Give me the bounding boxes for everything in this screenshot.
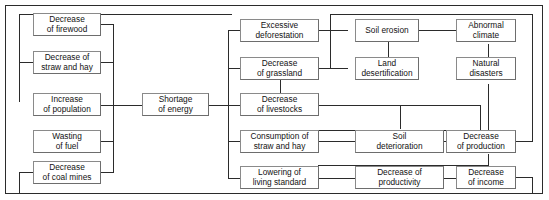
edge-abnormal-to-disasters: [488, 44, 489, 58]
node-straw-hay[interactable]: Decrease of straw and hay: [33, 51, 101, 74]
edge-erosion-to-abnormal: [418, 30, 456, 31]
edge-grassland-to-livestocks: [280, 80, 281, 93]
node-grassland[interactable]: Decrease of grassland: [240, 57, 319, 80]
node-wasting-fuel[interactable]: Wasting of fuel: [33, 130, 101, 153]
edge-deforestation-trunk: [330, 14, 331, 69]
node-natural-disasters[interactable]: Natural disasters: [456, 57, 516, 80]
edge-production-to-income: [488, 154, 489, 165]
edge-right-bus: [228, 30, 229, 178]
node-living-standard[interactable]: Lowering of living standard: [240, 166, 319, 189]
edge-coal-out: [100, 172, 114, 173]
node-desertification[interactable]: Land desertification: [355, 57, 419, 80]
node-abnormal-climate[interactable]: Abnormal climate: [456, 19, 516, 42]
edge-consumption-to-deterioration: [318, 141, 356, 142]
node-coal-mines[interactable]: Decrease of coal mines: [33, 161, 101, 184]
edge-coal-in: [19, 172, 33, 173]
node-soil-erosion[interactable]: Soil erosion: [355, 19, 419, 42]
node-livestocks[interactable]: Decrease of livestocks: [240, 93, 319, 116]
edge-income-bottom: [19, 193, 532, 194]
edge-left-bus: [113, 24, 114, 172]
edge-wasting-out: [100, 141, 114, 142]
edge-income-out: [516, 177, 533, 178]
edge-deforestation-right: [318, 30, 348, 31]
edge-coal-return-left: [19, 172, 20, 194]
edge-erosion-to-desert: [388, 42, 389, 57]
edge-branch-to-deterioration: [400, 105, 401, 129]
node-deterioration[interactable]: Soil deterioration: [355, 130, 444, 153]
edge-living-to-productivity: [318, 178, 356, 179]
edge-disasters-to-production: [488, 84, 489, 130]
edge-population-out: [100, 105, 114, 106]
edge-livestocks-drop: [480, 105, 481, 130]
node-consumption[interactable]: Consumption of straw and hay: [240, 130, 319, 153]
flowchart-diagram: Decrease of firewood Decrease of straw a…: [0, 0, 549, 200]
edge-production-out-right: [516, 141, 533, 142]
edge-firewood-out: [100, 24, 114, 25]
edge-return-outer-vertical: [19, 14, 20, 102]
edge-grassland-right: [318, 68, 348, 69]
edge-straw-out: [100, 62, 114, 63]
edge-production-feedback-up: [532, 14, 533, 142]
node-population[interactable]: Increase of population: [33, 93, 101, 116]
edge-return-to-straw: [19, 62, 33, 63]
edge-bus-to-shortage: [113, 105, 143, 106]
edge-income-return-right: [532, 177, 533, 194]
node-productivity[interactable]: Decrease of productivity: [355, 166, 444, 189]
node-shortage[interactable]: Shortage of energy: [142, 93, 209, 116]
edge-feedback-top: [330, 14, 533, 15]
node-production[interactable]: Decrease of production: [446, 130, 516, 153]
node-deforestation[interactable]: Excessive deforestation: [240, 19, 319, 42]
node-income[interactable]: Decrease of income: [456, 166, 516, 189]
node-firewood[interactable]: Decrease of firewood: [33, 13, 101, 36]
